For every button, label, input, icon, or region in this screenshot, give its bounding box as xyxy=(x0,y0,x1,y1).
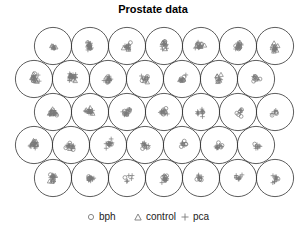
som-unit xyxy=(256,93,293,130)
som-unit xyxy=(89,126,126,163)
som-unit xyxy=(145,93,182,130)
som-unit xyxy=(34,159,71,196)
som-unit xyxy=(182,159,219,196)
som-unit xyxy=(52,60,89,97)
som-unit xyxy=(108,159,145,196)
som-unit xyxy=(200,60,237,97)
som-unit xyxy=(219,93,256,130)
som-plot xyxy=(0,0,306,236)
som-unit xyxy=(237,60,274,97)
som-unit xyxy=(126,126,163,163)
som-unit xyxy=(89,60,126,97)
triangle-marker-icon xyxy=(134,213,142,221)
som-unit xyxy=(219,27,256,64)
plus-marker-icon xyxy=(181,213,189,221)
legend-item-control: control xyxy=(134,210,176,224)
legend: bph control pca xyxy=(0,210,306,224)
som-unit xyxy=(34,27,71,64)
circle-marker-icon xyxy=(87,213,95,221)
som-unit xyxy=(163,126,200,163)
som-unit xyxy=(237,126,274,163)
legend-item-bph: bph xyxy=(87,210,116,224)
som-unit xyxy=(71,27,108,64)
som-unit xyxy=(163,60,200,97)
som-unit xyxy=(182,93,219,130)
som-unit xyxy=(52,126,89,163)
som-unit xyxy=(256,159,293,196)
som-unit xyxy=(108,93,145,130)
legend-item-pca: pca xyxy=(181,210,209,224)
som-unit xyxy=(15,126,52,163)
som-unit xyxy=(71,159,108,196)
som-unit xyxy=(219,159,256,196)
som-unit xyxy=(108,27,145,64)
som-unit xyxy=(256,27,293,64)
legend-label-control: control xyxy=(146,210,176,224)
som-unit xyxy=(200,126,237,163)
som-unit xyxy=(15,60,52,97)
som-unit xyxy=(145,159,182,196)
som-unit xyxy=(34,93,71,130)
legend-label-bph: bph xyxy=(99,210,116,224)
legend-label-pca: pca xyxy=(193,210,209,224)
som-unit xyxy=(71,93,108,130)
som-unit xyxy=(126,60,163,97)
som-unit xyxy=(182,27,219,64)
som-unit xyxy=(145,27,182,64)
